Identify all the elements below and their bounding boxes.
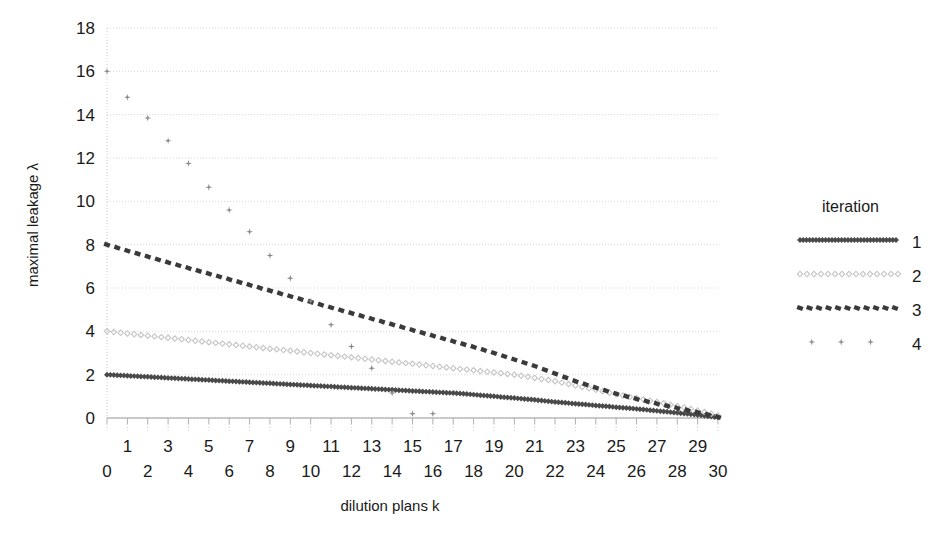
x-tick-label: 8 <box>265 462 274 481</box>
x-tick-label: 0 <box>102 462 111 481</box>
x-tick-label: 7 <box>245 437 254 456</box>
x-tick-label: 3 <box>163 437 172 456</box>
x-tick-label: 28 <box>668 462 687 481</box>
legend-label: 2 <box>912 267 921 286</box>
y-tick-label: 2 <box>86 366 95 385</box>
x-tick-label: 4 <box>184 462 193 481</box>
x-tick-label: 27 <box>647 437 666 456</box>
chart-container: 024681012141618 012345678910111213141516… <box>0 0 949 550</box>
x-tick-label: 10 <box>301 462 320 481</box>
y-tick-label: 0 <box>86 409 95 428</box>
x-tick-label: 12 <box>342 462 361 481</box>
x-tick-label: 26 <box>627 462 646 481</box>
x-tick-label: 14 <box>383 462 402 481</box>
y-axis-title: maximal leakage λ <box>24 162 41 287</box>
x-tick-label: 23 <box>566 437 585 456</box>
x-tick-label: 6 <box>224 462 233 481</box>
y-tick-label: 8 <box>86 236 95 255</box>
x-tick-label: 21 <box>525 437 544 456</box>
x-axis-title: dilution plans k <box>340 497 440 514</box>
y-tick-label: 6 <box>86 279 95 298</box>
x-tick-label: 13 <box>362 437 381 456</box>
x-tick-label: 2 <box>143 462 152 481</box>
x-tick-label: 15 <box>403 437 422 456</box>
x-tick-label: 29 <box>688 437 707 456</box>
legend-label: 3 <box>912 301 921 320</box>
x-tick-label: 1 <box>123 437 132 456</box>
y-tick-label: 16 <box>76 62 95 81</box>
x-tick-label: 5 <box>204 437 213 456</box>
x-tick-label: 18 <box>464 462 483 481</box>
chart-svg: 024681012141618 012345678910111213141516… <box>0 0 949 550</box>
legend-title: iteration <box>822 198 879 215</box>
y-tick-label: 4 <box>86 322 95 341</box>
x-tick-label: 24 <box>586 462 605 481</box>
x-tick-label: 25 <box>607 437 626 456</box>
x-tick-label: 30 <box>709 462 728 481</box>
x-tick-label: 17 <box>444 437 463 456</box>
x-tick-label: 11 <box>322 437 340 456</box>
y-tick-label: 14 <box>76 106 95 125</box>
y-tick-label: 12 <box>76 149 95 168</box>
legend-label: 1 <box>912 233 921 252</box>
x-tick-label: 19 <box>485 437 504 456</box>
y-tick-label: 10 <box>76 192 95 211</box>
y-tick-label: 18 <box>76 19 95 38</box>
x-tick-label: 20 <box>505 462 524 481</box>
x-tick-label: 22 <box>546 462 565 481</box>
x-tick-label: 9 <box>286 437 295 456</box>
x-tick-label: 16 <box>423 462 442 481</box>
legend-label: 4 <box>912 335 921 354</box>
